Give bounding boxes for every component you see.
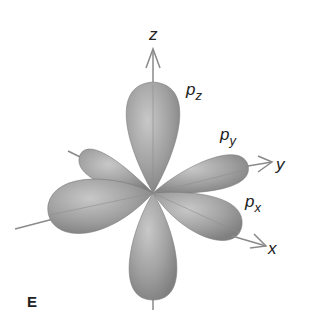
- y-axis-label: y: [275, 155, 286, 174]
- z-axis-label: z: [148, 25, 158, 44]
- x-axis-label: x: [267, 239, 277, 258]
- py-label: py: [219, 125, 237, 148]
- p-orbitals-diagram: z y x pz py px E: [0, 0, 309, 324]
- panel-label: E: [27, 293, 37, 310]
- pz-label: pz: [185, 80, 202, 103]
- px-label: px: [244, 192, 261, 215]
- px-lobe-negative: [48, 179, 153, 233]
- x-arrow-icon: [250, 234, 266, 248]
